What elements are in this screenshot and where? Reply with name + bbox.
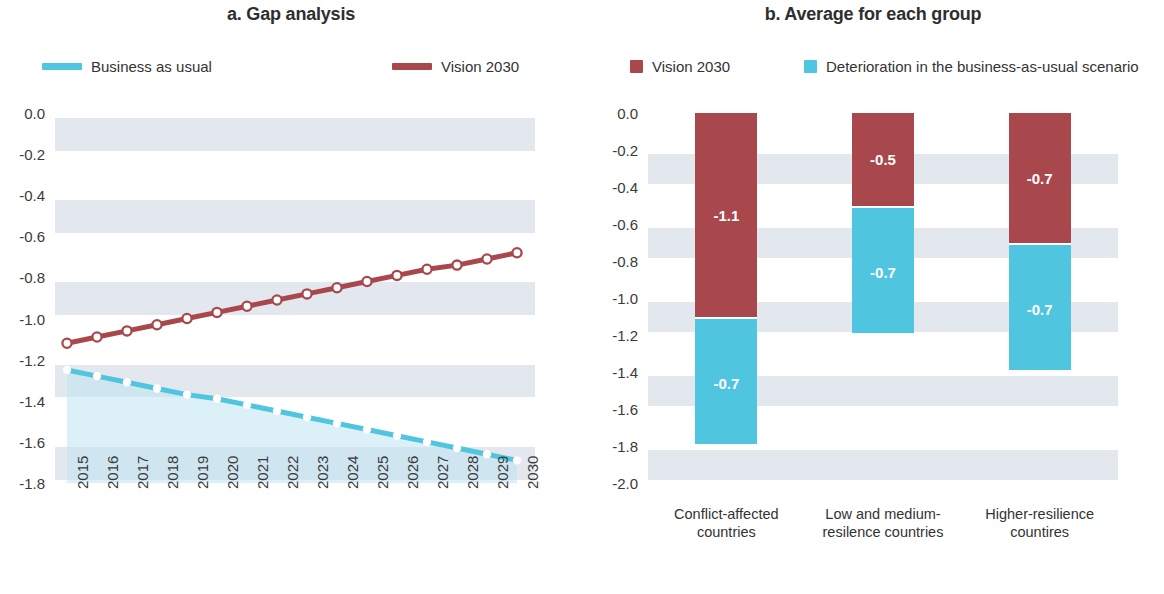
panel-b-plot-area: -1.1-0.7-0.5-0.7-0.7-0.7 xyxy=(648,113,1118,483)
x-tick-label: 2025 xyxy=(374,456,391,489)
y-tick-label: -0.8 xyxy=(582,253,638,270)
y-tick-label: -0.2 xyxy=(582,142,638,159)
category-label: Higher-resiliencecountires xyxy=(961,505,1118,541)
x-tick-label: 2029 xyxy=(494,456,511,489)
y-tick-label: -2.0 xyxy=(582,475,638,492)
vision-2030-point xyxy=(302,289,311,298)
grid-band xyxy=(648,450,1118,480)
vision-2030-point xyxy=(272,295,281,304)
vision-2030-point xyxy=(122,326,131,335)
panel-a-legend: Business as usual Vision 2030 xyxy=(0,56,582,82)
x-tick-label: 2023 xyxy=(314,456,331,489)
x-tick-label: 2019 xyxy=(194,456,211,489)
business-as-usual-point xyxy=(213,395,221,403)
bar-segment-deterioration[interactable]: -0.7 xyxy=(1009,243,1071,373)
bar-segment-deterioration[interactable]: -0.7 xyxy=(852,206,914,336)
business-as-usual-point xyxy=(393,432,401,440)
vision-2030-point xyxy=(452,261,461,270)
business-as-usual-point xyxy=(93,372,101,380)
legend-square-swatch-icon xyxy=(630,60,643,73)
x-tick-label: 2030 xyxy=(524,456,541,489)
bar-value-label: -0.7 xyxy=(1009,169,1071,186)
business-as-usual-point xyxy=(423,438,431,446)
vision-2030-point xyxy=(332,283,341,292)
y-tick-label: -0.8 xyxy=(0,269,45,286)
panel-a-plot-area xyxy=(55,113,535,483)
vision-2030-point xyxy=(62,339,71,348)
panel-b-title: b. Average for each group xyxy=(582,4,1164,25)
bar-value-label: -1.1 xyxy=(695,206,757,223)
category-label-line: Low and medium- xyxy=(805,505,962,523)
y-tick-label: -1.0 xyxy=(582,290,638,307)
x-tick-label: 2021 xyxy=(254,456,271,489)
y-tick-label: -1.2 xyxy=(0,351,45,368)
x-tick-label: 2024 xyxy=(344,456,361,489)
bar-value-label: -0.5 xyxy=(852,151,914,168)
business-as-usual-point xyxy=(243,401,251,409)
business-as-usual-point xyxy=(453,444,461,452)
category-label-line: resilence countries xyxy=(805,523,962,541)
vision-2030-point xyxy=(392,271,401,280)
legend-square-swatch-icon xyxy=(804,60,817,73)
vision-2030-line xyxy=(67,253,517,343)
y-tick-label: -1.4 xyxy=(0,392,45,409)
x-tick-label: 2027 xyxy=(434,456,451,489)
vision-2030-point xyxy=(512,248,521,257)
bar-value-label: -0.7 xyxy=(852,264,914,281)
y-tick-label: 0.0 xyxy=(582,105,638,122)
x-tick-label: 2022 xyxy=(284,456,301,489)
bar-segment-deterioration[interactable]: -0.7 xyxy=(695,317,757,447)
y-tick-label: -0.6 xyxy=(0,228,45,245)
business-as-usual-point xyxy=(123,378,131,386)
legend-line-swatch-icon xyxy=(42,63,82,70)
vision-2030-point xyxy=(422,265,431,274)
x-tick-label: 2017 xyxy=(134,456,151,489)
legend-line-swatch-icon xyxy=(392,63,432,70)
bar-value-label: -0.7 xyxy=(1009,301,1071,318)
y-tick-label: -1.4 xyxy=(582,364,638,381)
business-as-usual-point xyxy=(483,450,491,458)
y-tick-label: -1.8 xyxy=(0,475,45,492)
bar-value-label: -0.7 xyxy=(695,375,757,392)
business-as-usual-point xyxy=(363,425,371,433)
panel-a-lines xyxy=(55,113,535,483)
y-tick-label: 0.0 xyxy=(0,105,45,122)
category-label-line: Conflict-affected xyxy=(648,505,805,523)
category-label-line: countires xyxy=(961,523,1118,541)
legend-item-deterioration[interactable]: Deterioration in the business-as-usual s… xyxy=(804,58,1139,75)
legend-item-business-as-usual[interactable]: Business as usual xyxy=(42,58,212,75)
panel-a-gap-analysis: a. Gap analysis Business as usual Vision… xyxy=(0,0,582,594)
category-label-line: Higher-resilience xyxy=(961,505,1118,523)
category-label: Conflict-affectedcountries xyxy=(648,505,805,541)
vision-2030-point xyxy=(362,277,371,286)
business-as-usual-point xyxy=(63,366,71,374)
y-tick-label: -0.6 xyxy=(582,216,638,233)
bar-segment-vision-2030[interactable]: -1.1 xyxy=(695,113,757,317)
x-tick-label: 2026 xyxy=(404,456,421,489)
x-tick-label: 2018 xyxy=(164,456,181,489)
panel-a-title: a. Gap analysis xyxy=(0,4,582,25)
panel-b-average-each-group: b. Average for each group Vision 2030 De… xyxy=(582,0,1164,594)
y-tick-label: -0.4 xyxy=(582,179,638,196)
bar-segment-vision-2030[interactable]: -0.5 xyxy=(852,113,914,206)
y-tick-label: -1.8 xyxy=(582,438,638,455)
legend-item-vision-2030[interactable]: Vision 2030 xyxy=(392,58,519,75)
bar-segment-vision-2030[interactable]: -0.7 xyxy=(1009,113,1071,243)
category-label: Low and medium-resilence countries xyxy=(805,505,962,541)
x-tick-label: 2016 xyxy=(104,456,121,489)
y-tick-label: -1.6 xyxy=(0,433,45,450)
vision-2030-point xyxy=(242,302,251,311)
y-tick-label: -1.0 xyxy=(0,310,45,327)
vision-2030-point xyxy=(92,332,101,341)
panel-b-legend: Vision 2030 Deterioration in the busines… xyxy=(582,56,1164,82)
legend-label-vision-2030: Vision 2030 xyxy=(441,58,519,75)
legend-item-vision-2030[interactable]: Vision 2030 xyxy=(630,58,730,75)
x-tick-label: 2028 xyxy=(464,456,481,489)
category-label-line: countries xyxy=(648,523,805,541)
business-as-usual-point xyxy=(153,384,161,392)
legend-label-deterioration: Deterioration in the business-as-usual s… xyxy=(826,58,1139,75)
business-as-usual-point xyxy=(273,407,281,415)
business-as-usual-point xyxy=(303,413,311,421)
y-tick-label: -0.2 xyxy=(0,146,45,163)
x-tick-label: 2015 xyxy=(74,456,91,489)
